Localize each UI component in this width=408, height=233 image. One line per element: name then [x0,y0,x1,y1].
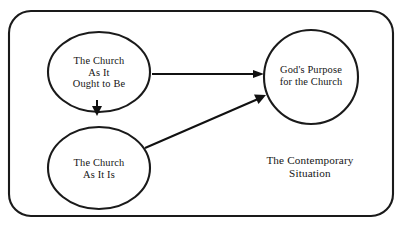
node-label-church-ought-to-be: The Church As It Ought to Be [73,55,125,90]
node-label-church-as-it-is: The Church As It Is [74,157,125,180]
frame-caption-contemporary-situation: The Contemporary Situation [266,154,353,180]
diagram-vector-layer [0,0,408,233]
node-label-line-2: for the Church [280,76,343,88]
arrow-as-it-is-to-gods-purpose [145,95,266,149]
node-label-line-1: God's Purpose [280,64,343,76]
node-label-line-2: As It Is [74,169,125,181]
node-label-line-1: The Church [73,55,125,67]
node-label-line-3: Ought to Be [73,78,125,90]
node-label-line-2: As It [73,66,125,78]
node-label-line-1: The Church [74,157,125,169]
frame-caption-line-2: Situation [266,167,353,180]
arrow-ought-to-be-to-gods-purpose [152,70,264,78]
diagram-canvas: The Church As It Ought to Be The Church … [0,0,408,233]
node-label-gods-purpose: God's Purpose for the Church [280,64,343,87]
frame-caption-line-1: The Contemporary [266,154,353,167]
